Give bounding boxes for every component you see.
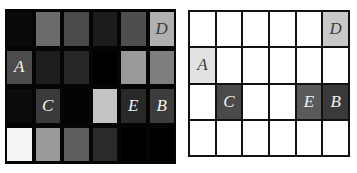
grid-cell [270, 85, 295, 119]
grid-cell [190, 121, 215, 155]
grid-cell [93, 128, 118, 162]
grid-cell [64, 51, 89, 85]
grid-cell [243, 121, 268, 155]
grid-cell-d: D [150, 12, 175, 46]
grid-cell [270, 121, 295, 155]
grid-cell-a: A [7, 51, 32, 85]
grid-cell [297, 48, 322, 82]
grid-cell [150, 128, 175, 162]
grid-cell [243, 12, 268, 46]
grid-cell-a: A [190, 48, 215, 82]
grid-cell [323, 121, 348, 155]
grid-cell-b: B [150, 89, 175, 123]
grid-cell [270, 12, 295, 46]
grid-cell [64, 12, 89, 46]
grid-cell [36, 12, 61, 46]
grid-cell [64, 128, 89, 162]
grid-cell [36, 51, 61, 85]
grayscale-grid: DACEB [5, 9, 176, 164]
grid-cell [93, 89, 118, 123]
grid-cell-e: E [297, 85, 322, 119]
grid-cell [323, 48, 348, 82]
grid-cell [36, 128, 61, 162]
grid-cell-e: E [121, 89, 146, 123]
grid-cell [121, 128, 146, 162]
grid-cell [93, 51, 118, 85]
grid-cell [7, 128, 32, 162]
grid-cell [190, 85, 215, 119]
grid-cell [243, 48, 268, 82]
grid-cell [121, 51, 146, 85]
grid-cell [243, 85, 268, 119]
grid-cell [64, 89, 89, 123]
grid-cell [7, 89, 32, 123]
grid-cell [217, 48, 242, 82]
labeled-grid-cells: DACEB [190, 12, 348, 155]
grid-cell-d: D [323, 12, 348, 46]
grid-cell [297, 121, 322, 155]
grid-cell-c: C [36, 89, 61, 123]
grayscale-grid-cells: DACEB [7, 12, 174, 161]
grid-cell-c: C [217, 85, 242, 119]
grid-cell [7, 12, 32, 46]
grid-cell [93, 12, 118, 46]
labeled-grid: DACEB [188, 10, 350, 157]
grid-cell [297, 12, 322, 46]
grid-cell-b: B [323, 85, 348, 119]
grid-cell [270, 48, 295, 82]
grid-cell [217, 121, 242, 155]
grid-cell [217, 12, 242, 46]
grid-cell [190, 12, 215, 46]
grid-cell [150, 51, 175, 85]
grid-cell [121, 12, 146, 46]
